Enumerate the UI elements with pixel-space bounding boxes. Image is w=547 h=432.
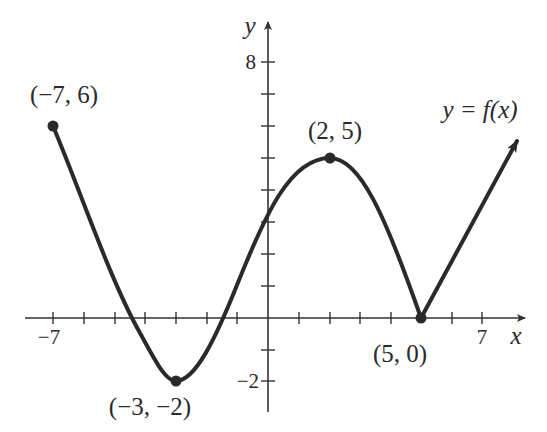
function-curve [53,126,421,381]
point-2-5 [325,153,336,164]
point-neg7-6 [48,121,59,132]
x-axis-label: x [509,322,521,349]
point-label-2-5: (2, 5) [308,117,362,145]
point-label-neg3-neg2: (−3, −2) [109,393,191,421]
point-label-neg7-6: (−7, 6) [30,81,98,109]
function-label: y = f(x) [439,96,517,124]
function-graph: −7 7 x 8 −2 y (−7, 6) (−3, −2) ( [0,0,547,432]
function-ray [421,141,517,318]
y-axis-label: y [241,12,256,39]
x-tick-label-neg7: −7 [38,325,60,349]
point-5-0 [416,313,427,324]
y-tick-label-neg2: −2 [237,369,259,393]
point-neg3-neg2 [171,376,182,387]
x-tick-label-7: 7 [477,325,488,349]
x-axis: −7 7 x [25,312,525,349]
point-label-5-0: (5, 0) [373,340,427,368]
y-tick-label-8: 8 [246,50,257,74]
